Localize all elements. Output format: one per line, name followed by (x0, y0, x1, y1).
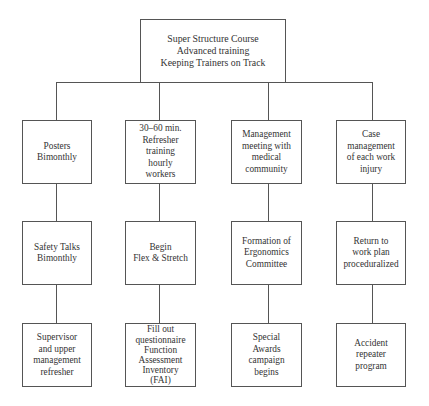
connector-col1-row2-row3 (56, 285, 57, 323)
box-label: Begin Flex & Stretch (133, 242, 188, 265)
connector-col2-top (159, 82, 160, 120)
col3-row3-box: Special Awards campaign begins (231, 323, 302, 387)
box-label: Case management of each work injury (347, 129, 396, 175)
box-label: Return to work plan proceduralized (343, 236, 398, 271)
col3-row2-box: Formation of Ergonomics Committee (231, 221, 302, 285)
col4-row2-box: Return to work plan proceduralized (336, 221, 406, 285)
root-label: Super Structure Course Advanced training… (161, 33, 266, 69)
col1-row1-box: Posters Bimonthly (22, 120, 92, 184)
connector-col4-row1-row2 (372, 183, 373, 221)
col3-row1-box: Management meeting with medical communit… (231, 120, 302, 184)
col1-row3-box: Supervisor and upper management refreshe… (22, 323, 92, 387)
box-label: Formation of Ergonomics Committee (242, 236, 291, 271)
connector-col3-row1-row2 (268, 183, 269, 221)
box-label: Accident repeater program (354, 338, 388, 373)
box-label: Supervisor and upper management refreshe… (33, 332, 81, 378)
connector-col4-top (372, 82, 373, 120)
root-box: Super Structure Course Advanced training… (140, 19, 286, 83)
col2-row3-box: Fill out questionnaire Function Assessme… (125, 323, 196, 387)
connector-col4-row2-row3 (372, 285, 373, 323)
col2-row1-box: 30–60 min. Refresher training hourly wor… (125, 120, 196, 184)
connector-col3-row2-row3 (268, 285, 269, 323)
box-label: Special Awards campaign begins (248, 332, 284, 378)
connector-col3-top (268, 82, 269, 120)
connector-col2-row2-row3 (159, 285, 160, 323)
box-label: Safety Talks Bimonthly (34, 242, 80, 265)
box-label: 30–60 min. Refresher training hourly wor… (139, 123, 181, 181)
col4-row1-box: Case management of each work injury (336, 120, 406, 184)
col4-row3-box: Accident repeater program (336, 323, 406, 387)
col1-row2-box: Safety Talks Bimonthly (22, 221, 92, 285)
connector-col2-row1-row2 (159, 183, 160, 221)
connector-col1-top (56, 82, 57, 120)
connector-col1-row1-row2 (56, 183, 57, 221)
box-label: Management meeting with medical communit… (242, 129, 291, 175)
col2-row2-box: Begin Flex & Stretch (125, 221, 196, 285)
box-label: Fill out questionnaire Function Assessme… (135, 324, 185, 385)
box-label: Posters Bimonthly (37, 141, 77, 164)
